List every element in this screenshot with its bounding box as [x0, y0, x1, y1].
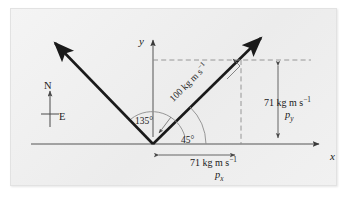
py-magnitude-exponent: −1 — [303, 96, 311, 104]
compass-east-label: E — [59, 112, 65, 123]
figure-panel: y x 135° 45° N E 100 kg m s−1 71 kg m s−… — [10, 8, 337, 186]
incoming-momentum-vector — [55, 43, 153, 144]
py-magnitude-text: 71 kg m s — [264, 97, 303, 108]
compass-rose — [41, 91, 59, 127]
px-magnitude-label: 71 kg m s−1 — [190, 157, 237, 168]
figure-root: y x 135° 45° N E 100 kg m s−1 71 kg m s−… — [0, 0, 347, 197]
outgoing-momentum-vector — [153, 38, 261, 144]
compass-north-label: N — [44, 81, 52, 92]
px-symbol-label: px — [215, 170, 224, 182]
angle-45-label: 45° — [181, 136, 194, 146]
py-symbol-label: py — [285, 110, 294, 122]
py-magnitude-label: 71 kg m s−1 — [264, 97, 311, 108]
px-symbol-subscript: x — [220, 174, 223, 183]
px-magnitude-exponent: −1 — [229, 156, 237, 164]
px-magnitude-text: 71 kg m s — [190, 157, 229, 168]
x-axis-label: x — [330, 151, 335, 162]
angle-135-label: 135° — [135, 117, 153, 127]
py-symbol-subscript: y — [290, 114, 293, 123]
y-axis-label: y — [139, 36, 144, 47]
